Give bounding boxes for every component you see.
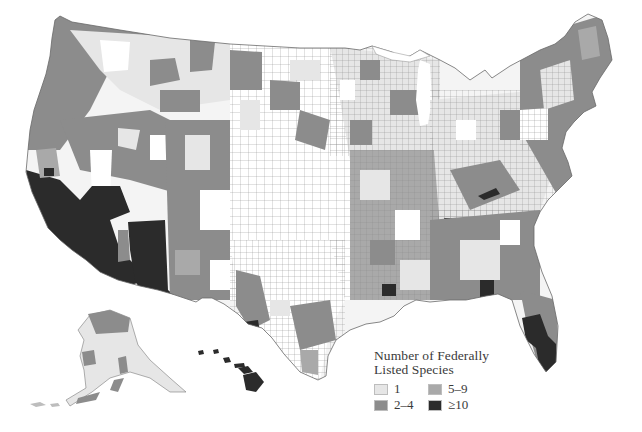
legend-label-1: 1 xyxy=(394,383,401,395)
hawaii xyxy=(198,349,264,392)
legend-title-line2: Listed Species xyxy=(374,363,489,377)
legend-label-5-9: 5–9 xyxy=(448,383,468,395)
legend-swatch-1 xyxy=(374,384,388,395)
legend-label-2-4: 2–4 xyxy=(394,399,414,411)
map-legend: Number of Federally Listed Species 1 5–9… xyxy=(374,349,489,411)
alaska xyxy=(30,310,186,407)
legend-item-1: 1 xyxy=(374,383,428,395)
legend-item-5-9: 5–9 xyxy=(428,383,488,395)
legend-swatch-2-4 xyxy=(374,400,388,411)
legend-item-10-plus: ≥10 xyxy=(428,399,488,411)
choropleth-map: Number of Federally Listed Species 1 5–9… xyxy=(0,0,642,432)
legend-title-line1: Number of Federally xyxy=(374,349,489,363)
legend-item-2-4: 2–4 xyxy=(374,399,428,411)
legend-swatch-5-9 xyxy=(428,384,442,395)
us-county-map xyxy=(0,0,642,432)
legend-label-10-plus: ≥10 xyxy=(448,399,468,411)
legend-swatch-10-plus xyxy=(428,400,442,411)
